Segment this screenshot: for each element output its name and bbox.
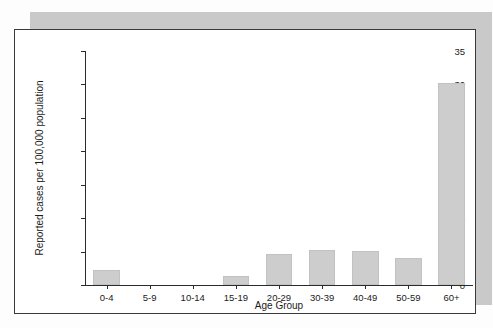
bar <box>266 254 293 285</box>
y-tick-mark <box>81 84 85 85</box>
y-tick-mark <box>81 151 85 152</box>
x-tick-mark <box>279 285 280 289</box>
x-tick-label: 40-49 <box>353 292 377 303</box>
page-background: Reported cases per 100,000 population Ag… <box>0 0 493 328</box>
figure-frame: Reported cases per 100,000 population Ag… <box>14 29 476 314</box>
x-tick-mark <box>150 285 151 289</box>
x-tick-label: 15-19 <box>224 292 248 303</box>
bar <box>352 251 379 285</box>
bar <box>93 270 120 285</box>
x-tick-mark <box>107 285 108 289</box>
bar <box>223 276 250 285</box>
y-tick-mark <box>81 51 85 52</box>
bar <box>395 258 422 285</box>
x-tick-mark <box>408 285 409 289</box>
x-tick-label: 20-29 <box>267 292 291 303</box>
y-axis-line <box>85 51 86 285</box>
y-axis-title: Reported cases per 100,000 population <box>34 80 45 255</box>
x-tick-mark <box>365 285 366 289</box>
x-tick-mark <box>193 285 194 289</box>
x-tick-mark <box>451 285 452 289</box>
bar <box>309 250 336 285</box>
y-tick-mark <box>81 218 85 219</box>
y-tick-mark <box>81 185 85 186</box>
x-tick-label: 50-59 <box>396 292 420 303</box>
x-tick-label: 30-39 <box>310 292 334 303</box>
bar <box>438 83 465 285</box>
x-tick-mark <box>236 285 237 289</box>
x-tick-label: 10-14 <box>181 292 205 303</box>
y-tick-label: 35 <box>454 46 465 57</box>
y-tick-mark <box>81 252 85 253</box>
y-tick-mark <box>81 118 85 119</box>
x-tick-label: 0-4 <box>100 292 114 303</box>
plot-area: 05101520253035 0-45-910-1415-1920-2930-3… <box>85 51 473 285</box>
x-tick-mark <box>322 285 323 289</box>
y-tick-mark <box>81 285 85 286</box>
x-tick-label: 60+ <box>443 292 459 303</box>
x-tick-label: 5-9 <box>143 292 157 303</box>
